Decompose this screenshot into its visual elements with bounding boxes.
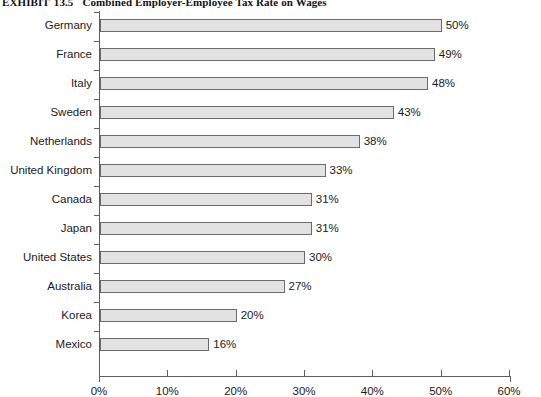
bar-category-label: Germany (45, 18, 92, 32)
x-axis-cap-left (99, 376, 100, 382)
y-axis-tick (94, 186, 99, 187)
y-axis-tick (94, 273, 99, 274)
bar-value-label: 27% (289, 279, 312, 293)
bar (100, 309, 237, 322)
bar (100, 164, 326, 177)
x-axis-tick-mark (99, 370, 100, 376)
y-axis-tick (94, 244, 99, 245)
y-axis-tick (94, 12, 99, 13)
x-axis-tick-mark (167, 370, 168, 376)
chart-title: EXHIBIT13.5Combined Employer-Employee Ta… (2, 0, 327, 10)
bar-value-label: 30% (309, 250, 332, 264)
y-axis-tick (94, 128, 99, 129)
bar-value-label: 31% (316, 221, 339, 235)
chart-plot-area: Germany50%France49%Italy48%Sweden43%Neth… (99, 11, 511, 377)
bar-category-label: Sweden (50, 105, 92, 119)
bar-category-label: France (56, 47, 92, 61)
exhibit-number: 13.5 (54, 0, 74, 8)
bar (100, 222, 312, 235)
y-axis-tick (94, 70, 99, 71)
bar (100, 338, 209, 351)
y-axis-tick (94, 215, 99, 216)
x-axis-tick-label: 0% (69, 385, 129, 397)
bar-value-label: 33% (330, 163, 353, 177)
bar (100, 280, 285, 293)
x-axis-tick-mark (236, 370, 237, 376)
x-axis-line (99, 376, 511, 377)
x-axis-tick-mark (509, 370, 510, 376)
bar-category-label: Korea (61, 308, 92, 322)
bar (100, 193, 312, 206)
bar-value-label: 38% (364, 134, 387, 148)
bar-category-label: United Kingdom (10, 163, 92, 177)
bar (100, 106, 394, 119)
bar-value-label: 49% (439, 47, 462, 61)
bar (100, 135, 360, 148)
bar-category-label: Mexico (56, 337, 92, 351)
chart-title-text: Combined Employer-Employee Tax Rate on W… (82, 0, 326, 8)
bar-category-label: Netherlands (30, 134, 92, 148)
y-axis-tick (94, 99, 99, 100)
x-axis-tick-label: 50% (411, 385, 471, 397)
bar-category-label: Australia (47, 279, 92, 293)
x-axis-tick-label: 20% (206, 385, 266, 397)
bar-category-label: Italy (71, 76, 92, 90)
bar-value-label: 31% (316, 192, 339, 206)
y-axis-tick (94, 157, 99, 158)
x-axis-tick-mark (441, 370, 442, 376)
x-axis-cap-right (510, 376, 511, 382)
x-axis-tick-label: 60% (479, 385, 539, 397)
y-axis-tick (94, 302, 99, 303)
bar-category-label: Canada (52, 192, 92, 206)
x-axis-tick-mark (372, 370, 373, 376)
bar-category-label: Japan (61, 221, 92, 235)
bar-value-label: 48% (432, 76, 455, 90)
x-axis-tick-label: 10% (137, 385, 197, 397)
bar (100, 77, 428, 90)
y-axis-tick (94, 41, 99, 42)
bar-value-label: 16% (213, 337, 236, 351)
bar-value-label: 50% (446, 18, 469, 32)
x-axis-tick-label: 30% (274, 385, 334, 397)
x-axis-tick-mark (304, 370, 305, 376)
bar (100, 19, 442, 32)
bar-category-label: United States (23, 250, 92, 264)
bar (100, 48, 435, 61)
exhibit-label: EXHIBIT (2, 0, 50, 8)
bar (100, 251, 305, 264)
bar-value-label: 43% (398, 105, 421, 119)
bar-value-label: 20% (241, 308, 264, 322)
y-axis-tick (94, 331, 99, 332)
x-axis-tick-label: 40% (342, 385, 402, 397)
